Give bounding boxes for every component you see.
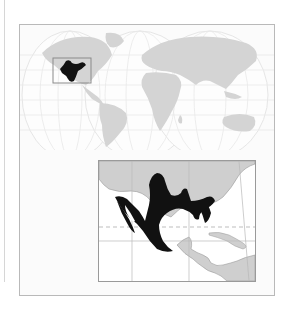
inset-map <box>98 160 256 282</box>
page-edge-line <box>4 0 5 282</box>
world-locator-map <box>20 25 274 150</box>
